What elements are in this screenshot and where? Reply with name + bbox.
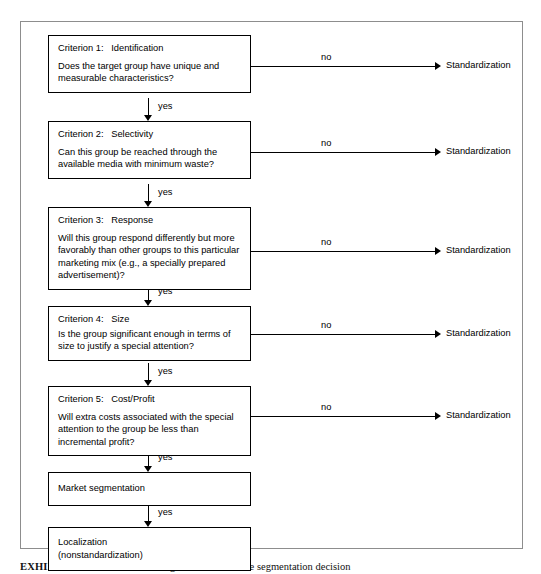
yes-connector-label-criterion-1: yes xyxy=(158,101,172,112)
no-branch-endpoint-criterion-1: Standardization xyxy=(446,60,511,71)
no-branch-arrowhead-criterion-5 xyxy=(435,412,441,420)
yes-connector-label-market-segmentation: yes xyxy=(158,507,172,518)
no-branch-label-criterion-5: no xyxy=(321,402,331,413)
flowchart-canvas: Criterion 1: Identification Does the tar… xyxy=(21,22,522,548)
yes-connector-arrowhead-criterion-3 xyxy=(144,300,152,306)
flow-node-criterion-2: Criterion 2: Selectivity Can this group … xyxy=(48,121,251,179)
yes-connector-arrowhead-criterion-4 xyxy=(144,380,152,386)
yes-connector-arrowhead-criterion-5 xyxy=(144,466,152,472)
yes-connector-label-criterion-4: yes xyxy=(158,366,172,377)
yes-connector-label-criterion-3: yes xyxy=(158,286,172,297)
flow-node-criterion-1: Criterion 1: Identification Does the tar… xyxy=(48,35,251,93)
node-question-criterion-5: Will extra costs associated with the spe… xyxy=(58,411,241,448)
node-title-market-segmentation: Market segmentation xyxy=(58,482,241,495)
flow-node-market-segmentation: Market segmentation xyxy=(48,472,251,506)
no-branch-endpoint-criterion-2: Standardization xyxy=(446,146,511,157)
yes-connector-arrowhead-criterion-1 xyxy=(144,115,152,121)
no-branch-label-criterion-2: no xyxy=(321,138,331,149)
no-branch-arrowhead-criterion-1 xyxy=(435,62,441,70)
node-question-criterion-2: Can this group be reached through the av… xyxy=(58,146,241,171)
flow-node-criterion-5: Criterion 5: Cost/Profit Will extra cost… xyxy=(48,386,251,456)
flow-node-criterion-4: Criterion 4: Size Is the group significa… xyxy=(48,306,251,361)
no-branch-endpoint-criterion-5: Standardization xyxy=(446,410,511,421)
no-branch-label-criterion-1: no xyxy=(321,52,331,63)
node-question-criterion-3: Will this group respond differently but … xyxy=(58,232,241,282)
node-title-localization: Localization xyxy=(58,536,241,549)
no-branch-arrowhead-criterion-2 xyxy=(435,148,441,156)
yes-connector-arrowhead-criterion-2 xyxy=(144,201,152,207)
no-branch-line-criterion-1 xyxy=(251,66,437,67)
node-question-localization: (nonstandardization) xyxy=(58,549,241,561)
yes-connector-label-criterion-5: yes xyxy=(158,452,172,463)
no-branch-endpoint-criterion-4: Standardization xyxy=(446,328,511,339)
node-title-criterion-3: Criterion 3: Response xyxy=(58,214,241,227)
node-title-criterion-2: Criterion 2: Selectivity xyxy=(58,128,241,141)
node-title-criterion-5: Criterion 5: Cost/Profit xyxy=(58,393,241,406)
no-branch-arrowhead-criterion-4 xyxy=(435,330,441,338)
no-branch-line-criterion-4 xyxy=(251,334,437,335)
no-branch-endpoint-criterion-3: Standardization xyxy=(446,245,511,256)
node-question-criterion-4: Is the group significant enough in terms… xyxy=(58,328,241,353)
no-branch-line-criterion-2 xyxy=(251,152,437,153)
flow-node-localization: Localization (nonstandardization) xyxy=(48,527,251,571)
node-question-criterion-1: Does the target group have unique and me… xyxy=(58,60,241,85)
no-branch-label-criterion-3: no xyxy=(321,237,331,248)
yes-connector-label-criterion-2: yes xyxy=(158,187,172,198)
no-branch-line-criterion-5 xyxy=(251,416,437,417)
yes-connector-arrowhead-market-segmentation xyxy=(144,521,152,527)
no-branch-line-criterion-3 xyxy=(251,251,437,252)
no-branch-label-criterion-4: no xyxy=(321,320,331,331)
exhibit-frame: Criterion 1: Identification Does the tar… xyxy=(20,21,523,549)
flow-node-criterion-3: Criterion 3: Response Will this group re… xyxy=(48,207,251,290)
node-title-criterion-1: Criterion 1: Identification xyxy=(58,42,241,55)
node-title-criterion-4: Criterion 4: Size xyxy=(58,313,241,326)
no-branch-arrowhead-criterion-3 xyxy=(435,247,441,255)
